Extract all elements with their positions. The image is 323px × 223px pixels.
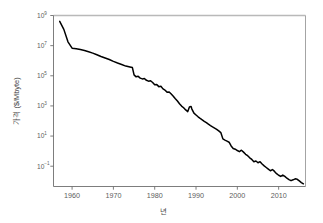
chart-figure: 10910710510310110−1 19601970198019902000… — [0, 0, 323, 223]
x-tick-label: 2010 — [271, 191, 287, 200]
y-tick-label: 103 — [37, 101, 47, 109]
x-tick-label: 2000 — [229, 191, 245, 200]
y-axis-title: 가격 ($/Mbyte) — [12, 77, 21, 124]
y-tick-label: 101 — [37, 131, 47, 139]
y-tick-exponent: −1 — [44, 161, 50, 166]
y-tick-label: 109 — [37, 11, 47, 19]
y-tick-exponent: 7 — [44, 41, 47, 46]
x-tick-label: 1980 — [147, 191, 163, 200]
y-tick-label: 10−1 — [37, 161, 50, 169]
y-tick-label: 105 — [37, 71, 47, 79]
y-tick-exponent: 9 — [44, 11, 47, 16]
y-tick-exponent: 3 — [44, 101, 47, 106]
x-tick-label: 1970 — [105, 191, 121, 200]
y-tick-exponent: 5 — [44, 71, 47, 76]
x-tick-label: 1960 — [64, 191, 80, 200]
x-axis-title: 년 — [160, 207, 167, 216]
y-axis-ticks: 10910710510310110−1 — [37, 11, 54, 170]
x-axis-ticks: 196019701980199020002010 — [64, 187, 287, 201]
x-tick-label: 1990 — [188, 191, 204, 200]
plot-frame — [54, 16, 306, 187]
memory-price-line-chart: 10910710510310110−1 19601970198019902000… — [0, 0, 323, 223]
y-tick-exponent: 1 — [44, 131, 47, 136]
price-series-line — [60, 21, 304, 183]
y-tick-label: 107 — [37, 41, 47, 49]
